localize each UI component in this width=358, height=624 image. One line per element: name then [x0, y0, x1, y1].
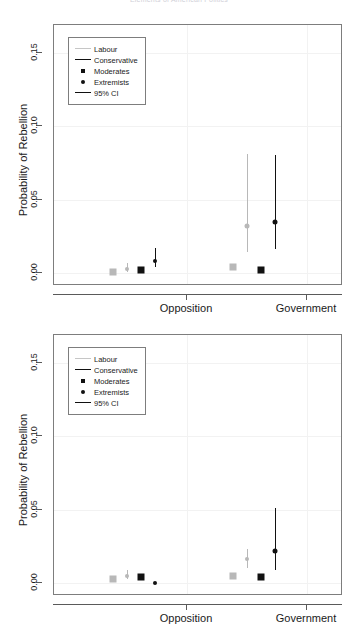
gridline-horizontal — [54, 200, 341, 201]
chart-legend: LabourConservativeModeratesExtremists95%… — [68, 37, 146, 105]
legend-item-label: Labour — [92, 355, 117, 364]
x-axis-tick-label: Opposition — [160, 612, 213, 624]
chart-panel-top: LabourConservativeModeratesExtremists95%… — [0, 2, 358, 313]
legend-line-grey-icon — [74, 354, 92, 364]
legend-item: Labour — [74, 354, 138, 364]
data-point-marker — [125, 574, 129, 578]
gridline-horizontal — [54, 436, 341, 437]
legend-item: Moderates — [74, 376, 138, 386]
data-point-marker — [230, 572, 237, 579]
x-axis-tick — [186, 604, 187, 610]
legend-item: Extremists — [74, 387, 138, 397]
y-axis-tick-label: 0.15 — [29, 362, 39, 380]
y-axis-title: Probability of Rebellion — [17, 85, 29, 235]
legend-item: Labour — [74, 44, 138, 54]
legend-item: Extremists — [74, 77, 138, 87]
legend-line-dark-icon — [74, 88, 92, 98]
gridline-vertical — [307, 335, 308, 594]
legend-item-label: Extremists — [92, 388, 129, 397]
data-point-marker — [273, 219, 278, 224]
x-axis-tick-label: Government — [276, 612, 337, 624]
chart-panel-bottom: LabourConservativeModeratesExtremists95%… — [0, 312, 358, 623]
y-axis-tick-label: 0.05 — [29, 509, 39, 527]
y-axis-tick-label: 0.05 — [29, 199, 39, 217]
x-axis-line — [53, 294, 342, 295]
data-point-marker — [153, 581, 157, 585]
confidence-interval-line — [247, 154, 248, 252]
legend-line-grey-icon — [74, 44, 92, 54]
confidence-interval-line — [275, 508, 276, 570]
legend-dot-icon — [74, 77, 92, 87]
data-point-marker — [138, 267, 145, 274]
legend-item: Conservative — [74, 55, 138, 65]
data-point-marker — [273, 548, 278, 553]
data-point-marker — [245, 557, 249, 561]
legend-item-label: 95% CI — [92, 89, 119, 98]
legend-square-icon — [74, 376, 92, 386]
y-axis-tick-label: 0.00 — [29, 582, 39, 600]
y-axis-tick-label: 0.10 — [29, 125, 39, 143]
legend-line-dark-icon — [74, 398, 92, 408]
data-point-marker — [110, 575, 117, 582]
legend-square-icon — [74, 66, 92, 76]
y-axis-tick-label: 0.00 — [29, 272, 39, 290]
plot-area: LabourConservativeModeratesExtremists95%… — [53, 24, 342, 285]
x-axis-line — [53, 604, 342, 605]
gridline-vertical — [187, 335, 188, 594]
legend-dot-icon — [74, 387, 92, 397]
x-axis-tick — [186, 294, 187, 300]
data-point-marker — [110, 268, 117, 275]
confidence-interval-line — [155, 248, 156, 267]
plot-area: LabourConservativeModeratesExtremists95%… — [53, 334, 342, 595]
legend-item-label: Conservative — [92, 366, 138, 375]
legend-item-label: Moderates — [92, 67, 129, 76]
gridline-horizontal — [54, 510, 341, 511]
x-axis-tick — [306, 294, 307, 300]
data-point-marker — [153, 259, 157, 263]
gridline-horizontal — [54, 273, 341, 274]
chart-legend: LabourConservativeModeratesExtremists95%… — [68, 347, 146, 415]
legend-item-label: 95% CI — [92, 399, 119, 408]
legend-item-label: Extremists — [92, 78, 129, 87]
gridline-horizontal — [54, 126, 341, 127]
legend-item: 95% CI — [74, 88, 138, 98]
y-axis-tick-label: 0.15 — [29, 52, 39, 70]
legend-item-label: Conservative — [92, 56, 138, 65]
data-point-marker — [125, 267, 129, 271]
data-point-marker — [258, 574, 265, 581]
y-axis-tick-label: 0.10 — [29, 435, 39, 453]
legend-item: 95% CI — [74, 398, 138, 408]
legend-item: Moderates — [74, 66, 138, 76]
y-axis-title: Probability of Rebellion — [17, 395, 29, 545]
legend-item-label: Moderates — [92, 377, 129, 386]
gridline-horizontal — [54, 583, 341, 584]
data-point-marker — [138, 574, 145, 581]
legend-item-label: Labour — [92, 45, 117, 54]
legend-line-dark-icon — [74, 365, 92, 375]
gridline-vertical — [187, 25, 188, 284]
legend-item: Conservative — [74, 365, 138, 375]
data-point-marker — [258, 267, 265, 274]
data-point-marker — [245, 223, 250, 228]
gridline-vertical — [307, 25, 308, 284]
legend-line-dark-icon — [74, 55, 92, 65]
confidence-interval-line — [275, 155, 276, 249]
data-point-marker — [230, 264, 237, 271]
x-axis-tick — [306, 604, 307, 610]
